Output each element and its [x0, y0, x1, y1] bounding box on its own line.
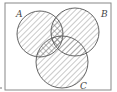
- venn-diagram: A B C: [0, 0, 117, 92]
- set-a-label: A: [15, 9, 23, 19]
- set-c-label: C: [80, 81, 87, 91]
- set-b-label: B: [100, 9, 108, 19]
- corner-mark: [0, 87, 2, 89]
